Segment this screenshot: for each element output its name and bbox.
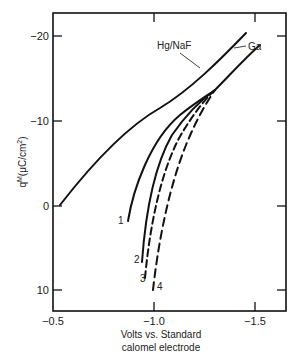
y-tick-label: −10 xyxy=(30,115,49,127)
y-axis-title: qM(μC/cm2) xyxy=(16,136,28,187)
svg-text:qM(μC/cm2): qM(μC/cm2) xyxy=(16,136,28,187)
y-axis-ticks xyxy=(53,36,286,290)
x-axis-ticks xyxy=(154,13,255,311)
label-hg-naf: Hg/NaF xyxy=(157,40,191,51)
curve-3 xyxy=(145,90,215,278)
y-tick-label: 0 xyxy=(43,200,49,212)
leader-hg-naf xyxy=(180,53,200,68)
plot-frame xyxy=(53,13,286,311)
y-tick-label: 10 xyxy=(37,284,49,296)
label-curve-1: 1 xyxy=(118,215,124,226)
x-tick-label: −1.0 xyxy=(143,315,165,327)
leader-ga xyxy=(234,46,246,48)
label-ga: Ga xyxy=(248,41,262,52)
label-curve-4: 4 xyxy=(157,281,163,292)
x-tick-label: −1.5 xyxy=(244,315,266,327)
label-curve-2: 2 xyxy=(134,254,140,265)
label-curve-3: 3 xyxy=(140,273,146,284)
x-tick-label: −0.5 xyxy=(42,315,64,327)
chart: −20 −10 0 10 −0.5 −1.0 −1.5 Volts vs. St… xyxy=(0,0,297,356)
curve-hg-naf xyxy=(60,33,246,205)
x-axis-title-line2: calomel electrode xyxy=(122,342,201,353)
y-tick-label: −20 xyxy=(30,30,49,42)
x-axis-title-line1: Volts vs. Standard xyxy=(121,329,202,340)
